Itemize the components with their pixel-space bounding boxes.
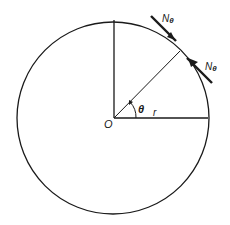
center-label: O — [104, 118, 113, 130]
angle-label: θ — [138, 103, 144, 115]
angle-arc — [130, 102, 136, 118]
radius-label: r — [153, 107, 157, 118]
lower-force-label: Nθ — [205, 61, 217, 73]
diagonal-radius-line — [114, 51, 180, 118]
upper-force-label: Nθ — [162, 13, 174, 25]
circle-force-diagram: O r θ Nθ Nθ — [0, 0, 230, 225]
